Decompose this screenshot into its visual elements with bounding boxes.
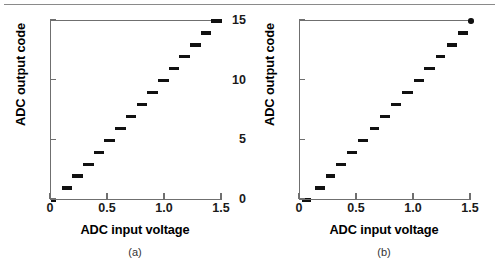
adc-code-step [72, 174, 83, 177]
adc-code-step [380, 115, 390, 118]
adc-code-step [424, 67, 434, 70]
y-tick-mark [299, 19, 305, 20]
x-tick-label: 1.5 [450, 202, 490, 215]
y-tick-mark [50, 139, 56, 140]
y-axis-title-b: ADC output code [262, 0, 277, 160]
y-tick-label: 0 [206, 193, 246, 206]
adc-code-step [179, 55, 190, 58]
adc-code-step [358, 139, 369, 142]
adc-code-step [414, 79, 424, 82]
adc-code-step [370, 127, 379, 130]
adc-code-step [62, 186, 73, 189]
adc-code-step [158, 79, 169, 82]
y-tick-label: 5 [206, 133, 246, 146]
y-tick-label: 10 [206, 74, 246, 87]
panel-caption-a: (a) [40, 246, 230, 258]
adc-code-step [336, 163, 346, 166]
adc-code-step [126, 115, 137, 118]
x-tick-label: 0.5 [87, 202, 127, 215]
adc-code-step [391, 103, 401, 106]
plot-area-b [299, 20, 470, 199]
x-tick-mark [355, 193, 356, 199]
plot-area-a [50, 20, 221, 199]
adc-code-step [169, 67, 180, 70]
x-tick-label: 0 [279, 202, 319, 215]
x-tick-mark [106, 193, 107, 199]
adc-code-step [347, 151, 357, 154]
y-tick-mark [50, 79, 56, 80]
adc-code-step [315, 186, 325, 189]
adc-code-step [436, 55, 446, 58]
adc-code-step [201, 31, 212, 34]
y-tick-mark [299, 198, 305, 199]
adc-code-step [190, 43, 201, 46]
x-tick-mark [469, 193, 470, 199]
adc-code-step [326, 174, 335, 177]
end-point-marker-dot [468, 18, 474, 24]
x-axis-line-b [299, 199, 471, 200]
x-tick-mark [412, 193, 413, 199]
x-tick-label: 0 [30, 202, 70, 215]
y-tick-mark [299, 139, 305, 140]
panel-b: ADC output code 05101500.51.01.5 ADC inp… [249, 0, 498, 266]
adc-code-step [147, 91, 158, 94]
x-tick-mark [49, 193, 50, 199]
x-tick-label: 1.0 [393, 202, 433, 215]
x-axis-title-a: ADC input voltage [40, 222, 230, 237]
y-tick-mark [50, 19, 56, 20]
adc-code-step [137, 103, 148, 106]
x-axis-line-a [50, 199, 222, 200]
x-tick-mark [298, 193, 299, 199]
adc-code-step [115, 127, 126, 130]
x-axis-title-b: ADC input voltage [289, 222, 479, 237]
figure-adc-transfer-characteristics: ADC output code 05101500.51.01.5 ADC inp… [0, 0, 499, 266]
adc-code-step [458, 31, 468, 34]
x-tick-label: 1.0 [144, 202, 184, 215]
y-tick-mark [50, 198, 56, 199]
adc-code-step [447, 43, 457, 46]
x-tick-label: 0.5 [336, 202, 376, 215]
y-tick-mark [299, 79, 305, 80]
adc-code-step [104, 139, 115, 142]
adc-code-step [83, 163, 94, 166]
x-tick-mark [163, 193, 164, 199]
y-tick-label: 15 [206, 14, 246, 27]
adc-code-step [94, 151, 105, 154]
y-axis-title-a: ADC output code [13, 0, 28, 160]
panel-caption-b: (b) [289, 246, 479, 258]
adc-code-step [402, 91, 413, 94]
